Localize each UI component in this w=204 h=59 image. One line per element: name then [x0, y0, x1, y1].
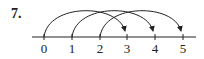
tick-label-3: 3	[124, 41, 131, 56]
tick-label-2: 2	[97, 41, 104, 56]
arc-1-to-4	[72, 11, 153, 37]
arc-2-to-5	[100, 11, 181, 37]
tick-label-0: 0	[41, 41, 48, 56]
tick-labels: 0 1 2 3 4 5	[41, 41, 187, 56]
tick-label-4: 4	[152, 41, 159, 56]
tick-label-5: 5	[180, 41, 187, 56]
arcs	[44, 11, 181, 37]
tick-label-1: 1	[69, 41, 76, 56]
arc-0-to-3	[44, 11, 125, 37]
number-line-diagram: 0 1 2 3 4 5	[0, 0, 204, 59]
